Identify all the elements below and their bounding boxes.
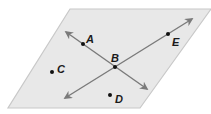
geometry-diagram: ABCDE — [0, 0, 211, 114]
label-b: B — [111, 52, 119, 64]
label-e: E — [172, 36, 180, 48]
label-c: C — [57, 63, 66, 75]
point-c — [50, 70, 54, 74]
label-a: A — [85, 33, 94, 45]
point-d — [108, 93, 112, 97]
point-e — [166, 32, 170, 36]
label-d: D — [115, 93, 123, 105]
point-a — [81, 42, 85, 46]
point-b — [113, 65, 117, 69]
